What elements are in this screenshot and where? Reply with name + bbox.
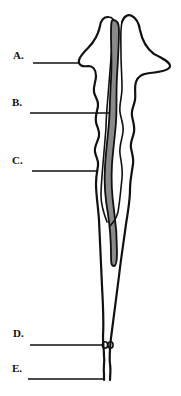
label-d: D. [13,328,24,339]
shaded-shaft [105,20,119,266]
outer-left-outline [79,17,108,380]
diagram-canvas [0,0,181,396]
label-e: E. [12,363,22,374]
label-b: B. [12,97,22,108]
label-a: A. [13,50,24,61]
label-c: C. [12,155,23,166]
outer-right-outline [110,15,170,380]
